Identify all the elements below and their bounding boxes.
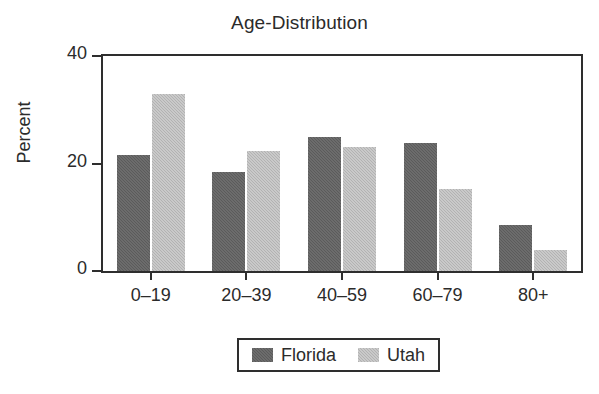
- y-tick-label: 0: [77, 258, 87, 279]
- x-tick-mark: [245, 271, 247, 280]
- legend-label-utah: Utah: [387, 346, 425, 364]
- y-axis: 02040: [0, 56, 101, 271]
- x-axis: 0–1920–3940–5960–7980+: [103, 271, 581, 311]
- x-tick-label: 80+: [473, 285, 593, 306]
- legend-entry-utah: Utah: [358, 346, 425, 364]
- bar-florida-2: [308, 137, 341, 271]
- y-tick-label: 40: [67, 43, 87, 64]
- plot-frame: [101, 54, 583, 273]
- chart-figure: Age-Distribution Percent 02040 0–1920–39…: [0, 0, 599, 394]
- bar-utah-2: [343, 147, 376, 271]
- x-tick-mark: [437, 271, 439, 280]
- x-tick-mark: [532, 271, 534, 280]
- y-tick-mark: [92, 163, 101, 165]
- bar-utah-3: [439, 189, 472, 271]
- x-tick-mark: [150, 271, 152, 280]
- bar-florida-0: [117, 155, 150, 271]
- plot-area: [103, 56, 581, 271]
- y-tick-label: 20: [67, 151, 87, 172]
- legend-entry-florida: Florida: [252, 346, 336, 364]
- chart-legend: Florida Utah: [237, 338, 440, 372]
- bar-florida-4: [499, 225, 532, 271]
- legend-swatch-utah-icon: [358, 348, 379, 362]
- chart-title: Age-Distribution: [0, 12, 599, 34]
- bar-utah-1: [247, 151, 280, 271]
- bar-florida-3: [404, 143, 437, 271]
- y-tick-mark: [92, 55, 101, 57]
- bar-utah-4: [534, 250, 567, 272]
- legend-label-florida: Florida: [281, 346, 336, 364]
- legend-swatch-florida-icon: [252, 348, 273, 362]
- x-tick-mark: [341, 271, 343, 280]
- bar-florida-1: [212, 172, 245, 271]
- bar-utah-0: [152, 94, 185, 271]
- y-tick-mark: [92, 270, 101, 272]
